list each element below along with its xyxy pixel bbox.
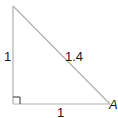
vertex-a-label: A bbox=[109, 98, 118, 111]
triangle-diagram: 1 1.4 1 A bbox=[0, 0, 118, 118]
hypotenuse bbox=[13, 6, 110, 104]
hypotenuse-label: 1.4 bbox=[65, 50, 83, 63]
right-angle-marker bbox=[13, 97, 20, 104]
bottom-side-label: 1 bbox=[57, 106, 64, 118]
left-side-label: 1 bbox=[4, 50, 11, 63]
triangle-shape bbox=[0, 0, 118, 118]
